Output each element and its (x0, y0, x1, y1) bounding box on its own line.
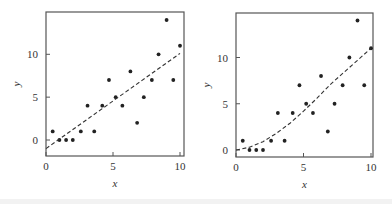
data-point (341, 83, 345, 87)
data-point (348, 56, 352, 60)
y-tick-label: 10 (217, 52, 229, 64)
panel-2: 05100510xy (200, 13, 377, 190)
data-point (150, 78, 154, 82)
data-point (157, 52, 161, 56)
y-tick-label: 10 (27, 48, 39, 60)
data-point (79, 130, 83, 134)
data-point (241, 139, 245, 143)
data-point (86, 104, 90, 108)
data-point (248, 148, 252, 152)
y-axis-label: y (10, 81, 22, 87)
data-point (261, 148, 265, 152)
axes-frame (46, 12, 184, 156)
data-point (333, 102, 337, 106)
data-point (269, 139, 273, 143)
data-point (171, 78, 175, 82)
fit-line (236, 48, 371, 150)
x-tick-label: 0 (43, 160, 49, 172)
data-point (291, 111, 295, 115)
x-tick-label: 10 (366, 161, 378, 173)
x-tick-label: 5 (301, 161, 307, 173)
data-point (107, 78, 111, 82)
data-point (319, 74, 323, 78)
data-point (254, 148, 258, 152)
data-point (311, 111, 315, 115)
chart-svg: 05100510xy05100510xy (0, 0, 392, 204)
data-point (362, 83, 366, 87)
data-point (64, 138, 68, 142)
y-tick-label: 0 (33, 134, 39, 146)
x-tick-label: 10 (175, 160, 187, 172)
x-axis-label: x (301, 178, 307, 190)
y-tick-label: 5 (223, 98, 229, 110)
data-point (92, 130, 96, 134)
data-point (135, 121, 139, 125)
y-tick-label: 5 (33, 91, 39, 103)
panel-1: 05100510xy (10, 12, 186, 189)
y-axis-label: y (200, 82, 212, 88)
data-point (276, 111, 280, 115)
data-point (129, 70, 133, 74)
data-point (298, 83, 302, 87)
data-point (165, 18, 169, 22)
x-tick-label: 0 (233, 161, 239, 173)
x-axis-label: x (112, 177, 118, 189)
data-point (71, 138, 75, 142)
bottom-divider (0, 199, 392, 204)
y-tick-label: 0 (223, 144, 229, 156)
data-point (304, 102, 308, 106)
data-point (326, 130, 330, 134)
data-point (142, 95, 146, 99)
data-point (120, 104, 124, 108)
data-point (178, 44, 182, 48)
figure: 05100510xy05100510xy (0, 0, 392, 204)
data-point (100, 104, 104, 108)
axes-frame (236, 13, 373, 157)
data-point (356, 19, 360, 23)
data-point (283, 139, 287, 143)
fit-line (46, 53, 180, 148)
x-tick-label: 5 (110, 160, 116, 172)
data-point (51, 130, 55, 134)
